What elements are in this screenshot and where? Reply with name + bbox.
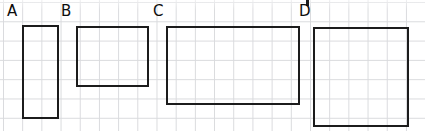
figure-canvas: ABCD <box>0 0 425 131</box>
shape-label-a: A <box>7 4 17 19</box>
shape-rectangle-b <box>76 26 149 87</box>
shape-label-d: D <box>299 4 311 19</box>
shape-label-c: C <box>153 4 163 19</box>
shape-label-b: B <box>61 4 71 19</box>
shape-rectangle-d <box>313 27 409 127</box>
shape-rectangle-c <box>166 26 300 105</box>
shape-rectangle-a <box>22 25 59 119</box>
